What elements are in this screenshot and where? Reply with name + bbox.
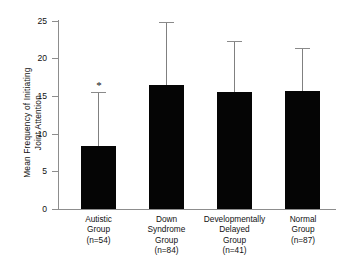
error-bar-cap-normal-group bbox=[295, 48, 310, 49]
y-tick-label-0: 0 bbox=[7, 205, 47, 214]
y-axis-line bbox=[58, 20, 59, 210]
x-axis-label-autistic-group: Autistic Group (n=54) bbox=[68, 214, 129, 245]
y-tick-mark-5 bbox=[52, 171, 58, 172]
significance-asterisk-autistic-group: * bbox=[89, 80, 109, 91]
error-bar-stem-normal-group bbox=[302, 48, 303, 91]
x-axis-line bbox=[58, 209, 336, 210]
error-bar-stem-down-syndrome-group bbox=[166, 22, 167, 85]
y-tick-label-10: 10 bbox=[7, 130, 47, 139]
error-bar-cap-down-syndrome-group bbox=[159, 22, 174, 23]
error-bar-stem-autistic-group bbox=[98, 92, 99, 146]
error-bar-stem-developmentally-delayed-group bbox=[234, 41, 235, 92]
bar-autistic-group bbox=[81, 146, 116, 209]
y-tick-label-5: 5 bbox=[7, 167, 47, 176]
bar-developmentally-delayed-group bbox=[217, 92, 252, 209]
bar-normal-group bbox=[285, 91, 320, 209]
bar-down-syndrome-group bbox=[149, 85, 184, 209]
y-tick-mark-20 bbox=[52, 58, 58, 59]
y-tick-mark-0 bbox=[52, 209, 58, 210]
x-axis-label-normal-group: Normal Group (n=87) bbox=[276, 214, 330, 245]
y-tick-label-20: 20 bbox=[7, 54, 47, 63]
error-bar-cap-developmentally-delayed-group bbox=[227, 41, 242, 42]
x-axis-label-down-syndrome-group: Down Syndrome Group (n=84) bbox=[133, 214, 200, 256]
y-tick-mark-25 bbox=[52, 21, 58, 22]
bar-chart-figure: Mean Frequency of Initiating Joint Atten… bbox=[0, 0, 344, 269]
x-axis-label-developmentally-delayed-group: Developmentally Delayed Group (n=41) bbox=[196, 214, 273, 256]
y-tick-label-25: 25 bbox=[7, 17, 47, 26]
y-tick-mark-10 bbox=[52, 134, 58, 135]
y-tick-mark-15 bbox=[52, 96, 58, 97]
error-bar-cap-autistic-group bbox=[91, 92, 106, 93]
y-tick-label-15: 15 bbox=[7, 92, 47, 101]
